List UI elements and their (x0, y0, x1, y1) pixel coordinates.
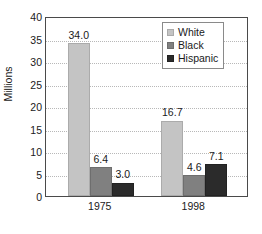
legend-label: White (178, 27, 205, 38)
bar-value-label: 34.0 (60, 30, 98, 41)
y-tick-label: 15 (18, 124, 42, 135)
bar-chart: Millions 0510152025303540 34.06.43.016.7… (0, 0, 262, 234)
bar-hispanic-1975 (112, 183, 134, 197)
y-tick-label: 25 (18, 79, 42, 90)
chart-legend: WhiteBlackHispanic (162, 22, 224, 69)
bar-value-label: 6.4 (82, 154, 120, 165)
x-axis-tick-labels: 19751998 (45, 201, 248, 217)
legend-swatch-icon (167, 42, 174, 49)
y-axis-title: Millions (2, 54, 14, 114)
legend-swatch-icon (167, 55, 174, 62)
x-tick-label: 1975 (88, 201, 111, 212)
legend-label: Hispanic (178, 53, 218, 64)
y-tick-label: 10 (18, 147, 42, 158)
y-tick-label: 40 (18, 12, 42, 23)
x-tick-label: 1998 (182, 201, 205, 212)
bar-value-label: 3.0 (104, 169, 142, 180)
y-tick-label: 0 (18, 192, 42, 203)
legend-swatch-icon (167, 29, 174, 36)
y-tick-label: 35 (18, 34, 42, 45)
y-tick-label: 30 (18, 57, 42, 68)
y-axis-tick-labels: 0510152025303540 (18, 17, 42, 197)
y-tick-label: 20 (18, 102, 42, 113)
legend-item-black: Black (167, 39, 218, 52)
bar-value-label: 7.1 (197, 151, 235, 162)
legend-item-white: White (167, 26, 218, 39)
bar-black-1998 (183, 175, 205, 196)
bar-value-label: 16.7 (153, 107, 191, 118)
bar-white-1975 (68, 43, 90, 196)
y-tick-label: 5 (18, 169, 42, 180)
legend-item-hispanic: Hispanic (167, 52, 218, 65)
legend-label: Black (178, 40, 204, 51)
bar-white-1998 (161, 121, 183, 196)
bar-hispanic-1998 (205, 164, 227, 196)
